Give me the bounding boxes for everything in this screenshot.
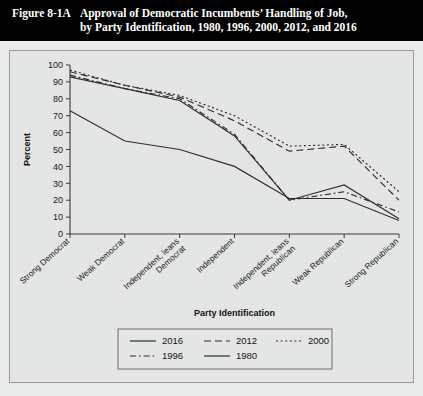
figure-header: Figure 8-1A Approval of Democratic Incum…	[0, 0, 423, 41]
legend-border	[118, 329, 332, 369]
y-tick-label: 90	[53, 77, 63, 87]
x-tick-label-line: Independent	[195, 236, 237, 275]
y-tick-label: 50	[53, 145, 63, 155]
x-tick-label-line: Strong Democrat	[18, 236, 72, 286]
figure-title-line-1: Approval of Democratic Incumbents’ Handl…	[80, 6, 357, 20]
x-tick-label-line: Weak Democrat	[75, 236, 127, 284]
series-line-2016	[70, 77, 399, 219]
y-axis-title: Percent	[22, 133, 32, 166]
x-tick-label: Independent, leansDemocrat	[121, 236, 188, 299]
line-chart: 0102030405060708090100 Strong DemocratWe…	[10, 51, 413, 382]
y-tick-label: 70	[53, 111, 63, 121]
y-tick-label: 10	[53, 212, 63, 222]
x-tick-label: Strong Democrat	[18, 236, 72, 286]
x-tick-label-line: Weak Republican	[290, 236, 346, 287]
series-line-1996	[70, 75, 399, 212]
x-tick-label: Independent, leansRepublican	[231, 236, 297, 298]
y-axis: 0102030405060708090100	[48, 60, 70, 239]
legend-label-1996: 1996	[162, 350, 183, 361]
y-tick-label: 100	[48, 60, 63, 70]
series-line-1980	[70, 111, 399, 221]
x-tick-label: Weak Republican	[290, 236, 346, 287]
y-tick-label: 60	[53, 128, 63, 138]
y-tick-label: 20	[53, 195, 63, 205]
x-tick-label: Independent	[195, 236, 237, 275]
x-axis: Strong DemocratWeak DemocratIndependent,…	[18, 234, 401, 298]
chart-series	[70, 70, 399, 220]
x-tick-label: Weak Democrat	[75, 236, 127, 284]
x-tick-label-line: Strong Republican	[342, 236, 400, 290]
figure-title-line-2: by Party Identification, 1980, 1996, 200…	[80, 20, 357, 34]
legend-label-2016: 2016	[162, 335, 183, 346]
y-tick-label: 30	[53, 179, 63, 189]
y-tick-label: 80	[53, 94, 63, 104]
chart-legend: 20162012200019961980	[118, 329, 332, 369]
legend-label-2000: 2000	[308, 335, 329, 346]
x-axis-title: Party Identification	[194, 308, 275, 318]
y-tick-label: 40	[53, 162, 63, 172]
x-tick-label: Strong Republican	[342, 236, 400, 290]
legend-label-2012: 2012	[236, 335, 257, 346]
series-line-2000	[70, 70, 399, 192]
legend-label-1980: 1980	[236, 350, 257, 361]
figure-number: Figure 8-1A	[12, 6, 80, 20]
chart-panel: 0102030405060708090100 Strong DemocratWe…	[9, 50, 414, 383]
